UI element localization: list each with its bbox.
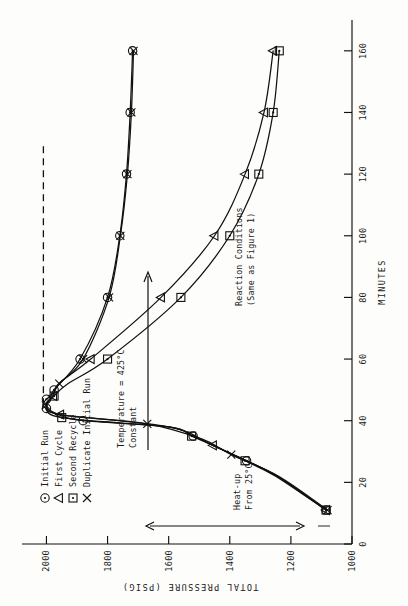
x-tick-label: 100 xyxy=(358,228,368,244)
heatup-label-line1: Heat-up xyxy=(232,474,242,510)
pressure-vs-time-chart: 020406080100120140160 100012001400160018… xyxy=(0,0,408,606)
legend-item-second-recycle: Second Recycle xyxy=(68,414,78,502)
y-tick-labels: 100012001400160018002000 xyxy=(41,550,357,572)
data-point-circle-dot xyxy=(45,398,47,400)
data-point-square-dot xyxy=(278,50,280,52)
y-tick-label: 2000 xyxy=(41,550,51,572)
legend-item-label: Second Recycle xyxy=(68,414,78,487)
y-tick-label: 1800 xyxy=(103,550,113,572)
x-tick-label: 40 xyxy=(358,415,368,426)
data-point-square-dot xyxy=(180,296,182,298)
data-point-square-dot xyxy=(72,497,74,499)
legend-item-label: Initial Run xyxy=(40,430,50,487)
data-point-cross xyxy=(83,494,91,502)
x-tick-label: 120 xyxy=(358,166,368,182)
x-tick-label: 140 xyxy=(358,104,368,120)
data-point-square-dot xyxy=(106,358,108,360)
scanned-figure-page: 020406080100120140160 100012001400160018… xyxy=(0,0,408,606)
x-axis-title: MINUTES xyxy=(377,259,387,305)
legend-item-first-cycle: First Cycle xyxy=(54,430,64,503)
constant-temp-line2: Temperature = 425°C xyxy=(116,349,126,448)
data-point-square-dot xyxy=(61,417,63,419)
y-tick-label: 1400 xyxy=(225,550,235,572)
figure-stage: 020406080100120140160 100012001400160018… xyxy=(0,0,408,606)
data-point-cross xyxy=(55,380,63,388)
reaction-conditions-line2: (Same as Figure 1) xyxy=(246,212,256,306)
data-point-circle-dot xyxy=(79,358,81,360)
y-axis-title: TOTAL PRESSURE (PSIG) xyxy=(122,582,259,592)
legend-item-label: First Cycle xyxy=(54,430,64,487)
legend-item-label: Duplicate Initial Run xyxy=(82,378,92,487)
x-tick-labels: 020406080100120140160 xyxy=(358,43,368,547)
data-point-square-dot xyxy=(258,173,260,175)
x-tick-label: 80 xyxy=(358,292,368,303)
y-tick-label: 1600 xyxy=(164,550,174,572)
legend-item-initial-run: Initial Run xyxy=(40,430,50,502)
data-point-circle-dot xyxy=(44,497,46,499)
y-tick-label: 1200 xyxy=(286,550,296,572)
heatup-span-arrow xyxy=(146,522,330,530)
x-tick-label: 0 xyxy=(358,541,368,546)
legend: Initial RunFirst CycleSecond RecycleDupl… xyxy=(40,378,92,503)
legend-item-duplicate-initial-run: Duplicate Initial Run xyxy=(82,378,92,502)
x-tick-label: 20 xyxy=(358,477,368,488)
constant-temp-line1: Constant xyxy=(128,406,138,448)
heatup-label-line2: From 25°C xyxy=(244,463,254,510)
data-point-triangle xyxy=(54,494,62,503)
reaction-conditions-line1: Reaction Conditions xyxy=(234,207,244,306)
y-tick-label: 1000 xyxy=(347,550,357,572)
x-tick-label: 60 xyxy=(358,354,368,365)
x-tick-label: 160 xyxy=(358,43,368,59)
data-point-square-dot xyxy=(272,111,274,113)
data-point-square-dot xyxy=(229,235,231,237)
